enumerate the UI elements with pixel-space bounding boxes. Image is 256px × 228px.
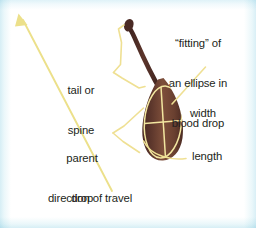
label-fitting-line-2: an ellipse in — [148, 77, 248, 90]
parent-drop-leader-lower — [113, 133, 140, 153]
label-tail-line-1: tail or — [52, 84, 110, 97]
arrow-head — [15, 14, 28, 27]
parent-drop-leader-upper — [113, 108, 144, 133]
label-direction-of-travel: direction of travel — [20, 192, 160, 205]
label-parent-line-1: parent — [53, 152, 111, 165]
label-fitting-of-ellipse: “fitting” of an ellipse in blood drop — [148, 11, 248, 156]
bloodstain-diagram-figure: “fitting” of an ellipse in blood drop ta… — [0, 0, 256, 228]
label-width: width — [190, 107, 216, 120]
tail-leader-bracket — [114, 25, 125, 73]
label-length: length — [192, 150, 222, 163]
label-fitting-line-1: “fitting” of — [148, 37, 248, 50]
label-parent-drop: parent drop — [53, 126, 111, 228]
tail-leader-lower — [114, 73, 146, 89]
